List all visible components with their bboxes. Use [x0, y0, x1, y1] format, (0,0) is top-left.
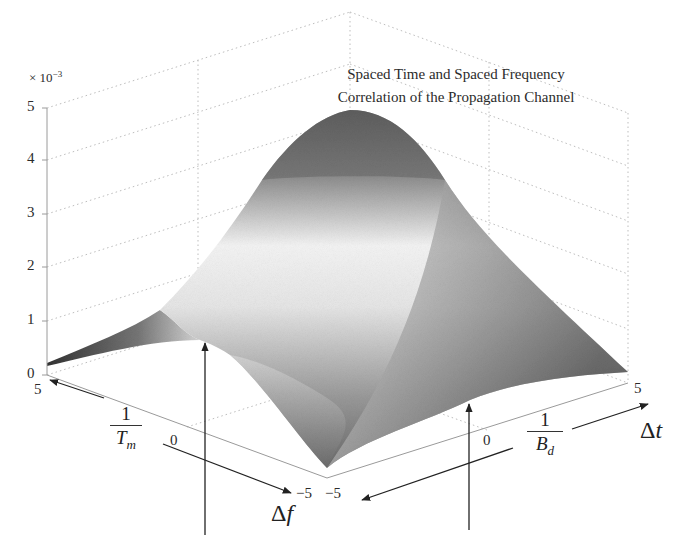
- bd-annotation: 1 Bd: [527, 409, 563, 463]
- bd-arrow-right: [572, 404, 648, 429]
- chart-title-line2: Correlation of the Propagation Channel: [296, 89, 616, 106]
- z-tick-1: 1: [27, 311, 35, 328]
- tm-arrow-right: [163, 444, 291, 493]
- z-tick-4: 4: [27, 150, 35, 167]
- bd-arrow-left: [362, 448, 513, 500]
- tm-denominator: Tm: [110, 426, 142, 457]
- z-scale-base: × 10: [29, 70, 53, 85]
- delta-f-axis-label: Δf: [271, 500, 293, 527]
- bd-numerator: 1: [527, 409, 563, 432]
- z-scale-factor: × 10−3: [29, 69, 62, 86]
- df-tick-minus5: −5: [296, 485, 312, 502]
- tm-arrow-left: [50, 380, 104, 398]
- surface-plot: [0, 0, 687, 559]
- tm-numerator: 1: [110, 403, 142, 426]
- chart-title-line1: Spaced Time and Spaced Frequency: [296, 66, 616, 83]
- z-tick-2: 2: [27, 257, 35, 274]
- df-tick-5: 5: [34, 381, 42, 398]
- delta-t-axis-label: Δt: [640, 417, 662, 444]
- dt-tick-0: 0: [483, 432, 491, 449]
- z-scale-exponent: −3: [53, 69, 63, 79]
- dt-tick-5: 5: [634, 380, 642, 397]
- tm-annotation: 1 Tm: [110, 403, 142, 457]
- bd-denominator: Bd: [527, 432, 563, 463]
- dt-tick-minus5: −5: [325, 485, 341, 502]
- z-tick-5: 5: [27, 98, 35, 115]
- z-tick-0: 0: [27, 365, 35, 382]
- z-tick-3: 3: [27, 204, 35, 221]
- df-tick-0: 0: [170, 432, 178, 449]
